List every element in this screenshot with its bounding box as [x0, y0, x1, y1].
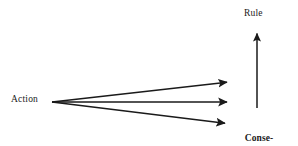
diagram-canvas: Action Rule Conse- quences — [0, 0, 298, 146]
label-action: Action — [11, 94, 38, 105]
arrow-action-to-consequence-lower — [52, 102, 225, 123]
label-consequences: Conse- quences — [236, 112, 282, 146]
label-consequences-line-1: Conse- — [236, 133, 282, 144]
arrow-action-to-consequence-upper — [52, 82, 227, 102]
label-rule: Rule — [244, 8, 263, 19]
